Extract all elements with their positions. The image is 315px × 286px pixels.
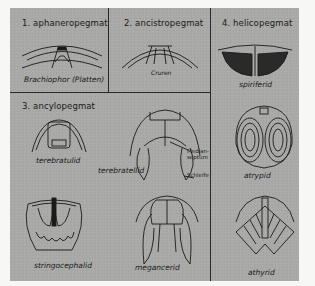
spiriferid-illustration [218, 40, 292, 78]
vertical-divider-left [108, 8, 109, 92]
annotation-label: septum [187, 154, 208, 160]
annotation-label: Cruren [151, 70, 171, 76]
specimen-label: spiriferid [239, 80, 272, 89]
athyrid-illustration [232, 194, 298, 256]
specimen-label: athyrid [248, 268, 275, 277]
stringocephalid-illustration [24, 196, 84, 252]
specimen-label: stringocephalid [34, 261, 92, 270]
megancerid-illustration [132, 194, 202, 268]
specimen-label: terebratellid [98, 166, 144, 175]
specimen-label: Brachiophor (Platten) [24, 75, 104, 84]
specimen-label: atrypid [244, 171, 271, 180]
atrypid-illustration [232, 104, 296, 170]
brachidia-diagram-panel: 1. aphaneropegmat Brachiophor (Platten) … [10, 8, 299, 281]
terebratulid-illustration [32, 116, 86, 156]
aphaneropegmat-illustration [22, 38, 102, 78]
cell-title: 3. ancylopegmat [22, 101, 95, 111]
cell-title: 2. ancistropegmat [124, 18, 203, 28]
cell-title: 1. aphaneropegmat [22, 18, 108, 28]
cell-title: 4. helicopegmat [222, 18, 292, 28]
specimen-label: megancerid [135, 263, 180, 272]
annotation-label: Schleife [187, 172, 209, 178]
horizontal-divider [10, 92, 210, 93]
specimen-label: terebratulid [36, 156, 80, 165]
vertical-divider-right [210, 8, 211, 281]
